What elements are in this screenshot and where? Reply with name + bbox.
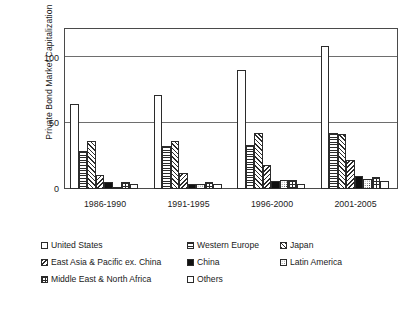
legend-item[interactable]: Others — [187, 274, 223, 284]
legend-swatch-icon — [41, 259, 48, 266]
bar — [329, 133, 338, 189]
bar — [213, 184, 222, 189]
bar — [70, 104, 79, 189]
legend-swatch-icon — [187, 242, 194, 249]
bar — [162, 146, 171, 189]
bar-group — [237, 28, 307, 189]
bar — [179, 173, 188, 189]
legend-label: Japan — [290, 240, 313, 250]
y-tick-label-50: 50 — [19, 119, 59, 128]
legend-swatch-icon — [280, 242, 287, 249]
bar — [288, 180, 297, 189]
legend-swatch-icon — [41, 242, 48, 249]
legend-label: East Asia & Pacific ex. China — [51, 257, 161, 267]
bar — [121, 182, 130, 189]
legend-label: Latin America — [290, 257, 342, 267]
bar — [113, 187, 122, 189]
x-tick-label: 1986-1990 — [65, 199, 145, 209]
bar — [96, 175, 105, 189]
legend-row: United StatesWestern EuropeJapan — [41, 240, 391, 257]
bar — [380, 181, 389, 189]
y-tick-label-100: 100 — [19, 54, 59, 63]
y-axis-title: Private Bond Market Capitalization (Perc… — [33, 0, 63, 167]
bar — [79, 151, 88, 189]
bar — [196, 184, 205, 189]
bar — [205, 182, 214, 189]
bar-group — [321, 28, 391, 189]
x-tick-label: 2001-2005 — [316, 199, 396, 209]
bar — [188, 184, 197, 189]
bar — [237, 70, 246, 189]
bar — [263, 165, 272, 189]
bar — [171, 141, 180, 189]
legend-item[interactable]: China — [187, 257, 219, 267]
legend-swatch-icon — [187, 259, 194, 266]
bar — [363, 179, 372, 189]
legend-row: Middle East & North AfricaOthers — [41, 274, 391, 291]
bar — [271, 181, 280, 189]
bar — [254, 133, 263, 189]
bar — [130, 184, 139, 189]
bar — [355, 176, 364, 189]
legend-label: Middle East & North Africa — [51, 274, 151, 284]
x-tick-label: 1991-1995 — [149, 199, 229, 209]
legend-label: United States — [51, 240, 103, 250]
bar — [280, 180, 289, 189]
x-tick-label: 1996-2000 — [232, 199, 312, 209]
legend-item[interactable]: Latin America — [280, 257, 342, 267]
bar-group — [70, 28, 140, 189]
y-tick-label-0: 0 — [19, 185, 59, 194]
legend-label: Others — [197, 274, 223, 284]
legend-row: East Asia & Pacific ex. ChinaChinaLatin … — [41, 257, 391, 274]
bar — [87, 141, 96, 189]
legend-swatch-icon — [280, 259, 287, 266]
legend-label: China — [197, 257, 219, 267]
legend-item[interactable]: Western Europe — [187, 240, 259, 250]
bar-group — [154, 28, 224, 189]
bars-layer — [64, 28, 398, 189]
bar — [297, 184, 306, 189]
bar — [321, 46, 330, 189]
legend-item[interactable]: Japan — [280, 240, 313, 250]
legend-item[interactable]: United States — [41, 240, 103, 250]
bar — [346, 160, 355, 189]
bar-chart-figure: Private Bond Market Capitalization (Perc… — [0, 0, 420, 316]
chart-legend: United StatesWestern EuropeJapanEast Asi… — [41, 240, 391, 291]
bar — [372, 177, 381, 189]
bar — [104, 182, 113, 189]
legend-item[interactable]: East Asia & Pacific ex. China — [41, 257, 161, 267]
bar — [154, 95, 163, 189]
legend-swatch-icon — [41, 276, 48, 283]
legend-item[interactable]: Middle East & North Africa — [41, 274, 151, 284]
bar — [246, 145, 255, 190]
bar — [338, 134, 347, 189]
legend-swatch-icon — [187, 276, 194, 283]
legend-label: Western Europe — [197, 240, 259, 250]
